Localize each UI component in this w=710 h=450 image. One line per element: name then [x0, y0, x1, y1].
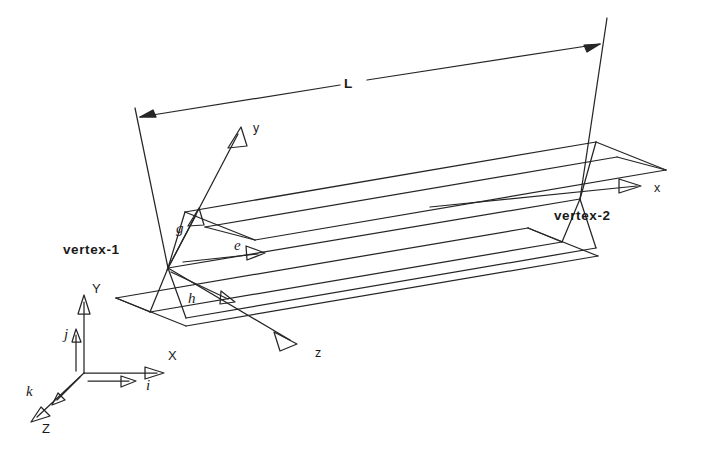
dimension-L — [135, 18, 607, 268]
beam-bottom-flange-fold — [150, 242, 562, 312]
beam-solid — [116, 142, 666, 326]
local-axis-z-arrowhead — [274, 332, 297, 351]
unit-vector-e — [183, 246, 265, 262]
dimension-extension-left — [135, 108, 168, 268]
unit-vector-j-label: j — [62, 326, 68, 342]
dimension-arrow-right — [584, 44, 600, 52]
global-axis-Y — [78, 295, 90, 373]
global-axis-Y-label: Y — [92, 281, 101, 296]
dimension-line-right-segment — [367, 44, 600, 80]
local-axis-z-label: z — [315, 346, 321, 360]
unit-vector-k-label: k — [26, 383, 33, 399]
diagram-canvas: L vertex-1 vertex-2 x y z e g h Y X Z i … — [0, 0, 710, 450]
vertex-1-label: vertex-1 — [63, 242, 120, 257]
vertex-2-label: vertex-2 — [554, 208, 611, 223]
beam-end-face-vertex2 — [528, 142, 666, 242]
global-axis-X-label: X — [168, 348, 177, 363]
unit-vector-h-label: h — [188, 290, 196, 306]
unit-vector-h-shaft — [171, 272, 228, 299]
beam-geometry-figure: L vertex-1 vertex-2 x y z e g h Y X Z i … — [0, 0, 710, 450]
global-axes-triad — [31, 295, 164, 422]
unit-vector-g-label: g — [176, 220, 184, 236]
dimension-label-L: L — [344, 76, 352, 91]
global-axis-Z-label: Z — [42, 421, 50, 436]
local-axis-x-arrowhead — [619, 179, 641, 193]
local-axis-y-arrowhead — [228, 127, 247, 148]
dimension-line-left-segment — [140, 85, 340, 117]
unit-vector-i — [88, 376, 136, 387]
local-axis-x-label: x — [654, 181, 661, 195]
unit-vector-e-label: e — [234, 237, 241, 253]
dimension-arrow-left — [140, 110, 156, 117]
unit-vector-k-shaft — [57, 377, 80, 400]
unit-vector-k — [52, 377, 80, 405]
local-axis-x-shaft — [430, 186, 637, 207]
unit-vector-i-label: i — [146, 377, 150, 393]
local-axis-y-label: y — [253, 121, 260, 135]
unit-vector-j — [72, 329, 81, 371]
